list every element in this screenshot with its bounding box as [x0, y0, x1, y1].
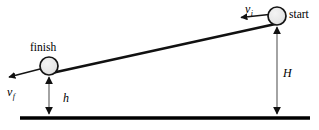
start-ball	[268, 7, 286, 25]
velocity-final-subscript: f	[13, 92, 15, 101]
height-h-label: h	[63, 92, 69, 104]
velocity-final-symbol: v	[7, 85, 12, 99]
velocity-final-label: vf	[7, 86, 15, 98]
velocity-final-arrow	[9, 69, 42, 78]
height-H-label: H	[283, 67, 292, 79]
incline-ramp-line	[54, 23, 280, 73]
finish-ball	[40, 57, 58, 75]
physics-diagram-figure: start finish H h vi vf	[0, 0, 319, 130]
velocity-initial-subscript: i	[251, 9, 253, 18]
finish-label: finish	[30, 42, 56, 54]
start-label: start	[289, 9, 309, 21]
velocity-initial-label: vi	[245, 3, 253, 15]
velocity-initial-symbol: v	[245, 2, 250, 16]
diagram-canvas	[0, 0, 319, 130]
